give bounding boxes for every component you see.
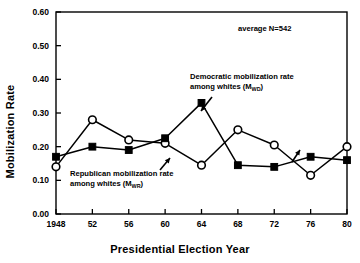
x-tick-label: 60	[160, 219, 170, 229]
x-tick-label: 68	[233, 219, 243, 229]
data-point-square	[162, 135, 169, 142]
data-point-square	[344, 157, 351, 164]
data-point-square	[89, 143, 96, 150]
x-tick-label: 76	[306, 219, 316, 229]
data-point-circle	[125, 136, 133, 144]
x-tick-label: 64	[197, 219, 207, 229]
annotation-average-n: average N=542	[238, 24, 291, 33]
x-tick-label: 72	[270, 219, 280, 229]
y-tick-label: 0.30	[32, 108, 49, 118]
y-tick-label: 0.40	[32, 74, 49, 84]
x-tick-label: 1948	[47, 219, 66, 229]
y-tick-label: 0.20	[32, 142, 49, 152]
x-axis-title: Presidential Election Year	[0, 243, 360, 255]
data-point-circle	[343, 143, 351, 151]
y-axis-title: Mobilization Rate	[0, 0, 21, 263]
data-point-square	[307, 153, 314, 160]
data-point-circle	[234, 126, 242, 134]
x-tick-label: 56	[124, 219, 134, 229]
data-point-square	[271, 163, 278, 170]
data-point-circle	[52, 163, 60, 171]
plot-canvas: 0.000.100.200.300.400.500.60 19485256606…	[0, 0, 360, 263]
x-tick-label: 52	[88, 219, 98, 229]
data-point-square	[198, 100, 205, 107]
y-tick-label: 0.10	[32, 175, 49, 185]
data-point-circle	[89, 116, 97, 124]
annotation-republican-line1: Republican mobilization rate	[70, 169, 173, 178]
annotation-democratic-line1: Democratic mobilization rate	[190, 72, 294, 81]
data-point-square	[125, 147, 132, 154]
y-tick-label: 0.50	[32, 41, 49, 51]
x-tick-label: 80	[342, 219, 352, 229]
data-point-circle	[270, 141, 278, 149]
data-point-square	[234, 162, 241, 169]
chart-figure: Mobilization Rate Presidential Election …	[0, 0, 360, 263]
data-point-square	[53, 153, 60, 160]
data-point-circle	[198, 161, 206, 169]
y-tick-label: 0.00	[32, 209, 49, 219]
data-point-circle	[307, 171, 315, 179]
y-tick-label: 0.60	[32, 7, 49, 17]
